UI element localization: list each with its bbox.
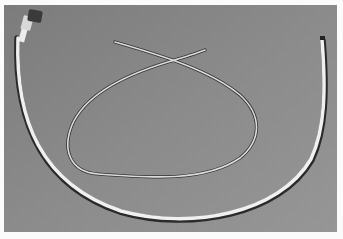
catheter-photo bbox=[0, 0, 343, 239]
photo-border: Grayscale photograph of two medical cath… bbox=[0, 0, 343, 239]
catheter-tip bbox=[320, 36, 325, 40]
gray-background bbox=[4, 5, 337, 232]
